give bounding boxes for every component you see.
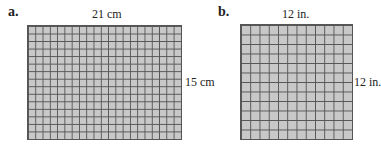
figure-a-label: a. (8, 4, 19, 20)
figure-a-width-label: 21 cm (92, 7, 122, 22)
figure-a-height-label: 15 cm (185, 75, 215, 90)
figure-b-height-label: 12 in. (354, 75, 381, 90)
figure-b-width-label: 12 in. (282, 7, 309, 22)
figure-b-label: b. (218, 4, 229, 20)
figure-b-grid-square (240, 24, 353, 140)
figure-a-grid-rectangle (27, 25, 182, 140)
